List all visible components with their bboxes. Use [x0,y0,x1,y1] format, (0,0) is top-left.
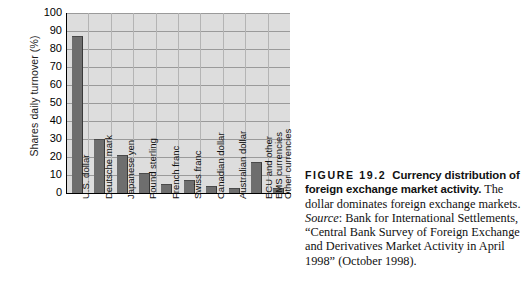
y-axis-tick-label: 0 [34,187,62,198]
y-axis-tick-label: 70 [34,61,62,72]
bar [251,162,262,193]
x-axis-category-label: Other currencies [283,129,293,199]
x-axis-category-label: Pound sterling [148,138,158,199]
y-axis-line [66,13,67,194]
figure-container: Shares daily turnover (%) 10090807060504… [0,0,526,305]
y-axis-tick-label: 80 [34,43,62,54]
x-axis-category-label: U.S. dollar [81,155,91,199]
y-axis-tick-label: 100 [34,7,62,18]
y-axis-tick-labels: 1009080706050403020100 [30,0,62,305]
figure-caption: FIGURE 19.2 Currency distribution of for… [305,168,521,268]
x-axis-category-label: Swiss franc [193,150,203,199]
y-axis-tick-label: 60 [34,79,62,90]
y-axis-tick-label: 20 [34,151,62,162]
x-axis-category-label: Canadian dollar [216,132,226,199]
y-axis-tick-label: 40 [34,115,62,126]
y-axis-tick-label: 30 [34,133,62,144]
x-axis-category-label: French franc [171,146,181,199]
y-axis-tick-label: 90 [34,25,62,36]
y-axis-tick-label: 50 [34,97,62,108]
figure-number: FIGURE 19.2 [305,169,386,181]
x-axis-category-label: Deutsche mark [104,135,114,199]
bar-chart: Shares daily turnover (%) 10090807060504… [0,0,300,305]
x-axis-category-label: Australian dollar [238,131,248,199]
x-axis-category-label: Japanese yen [126,140,136,199]
y-axis-tick-label: 10 [34,169,62,180]
source-label: Source [305,211,339,225]
caption-text: FIGURE 19.2 Currency distribution of for… [305,168,521,268]
